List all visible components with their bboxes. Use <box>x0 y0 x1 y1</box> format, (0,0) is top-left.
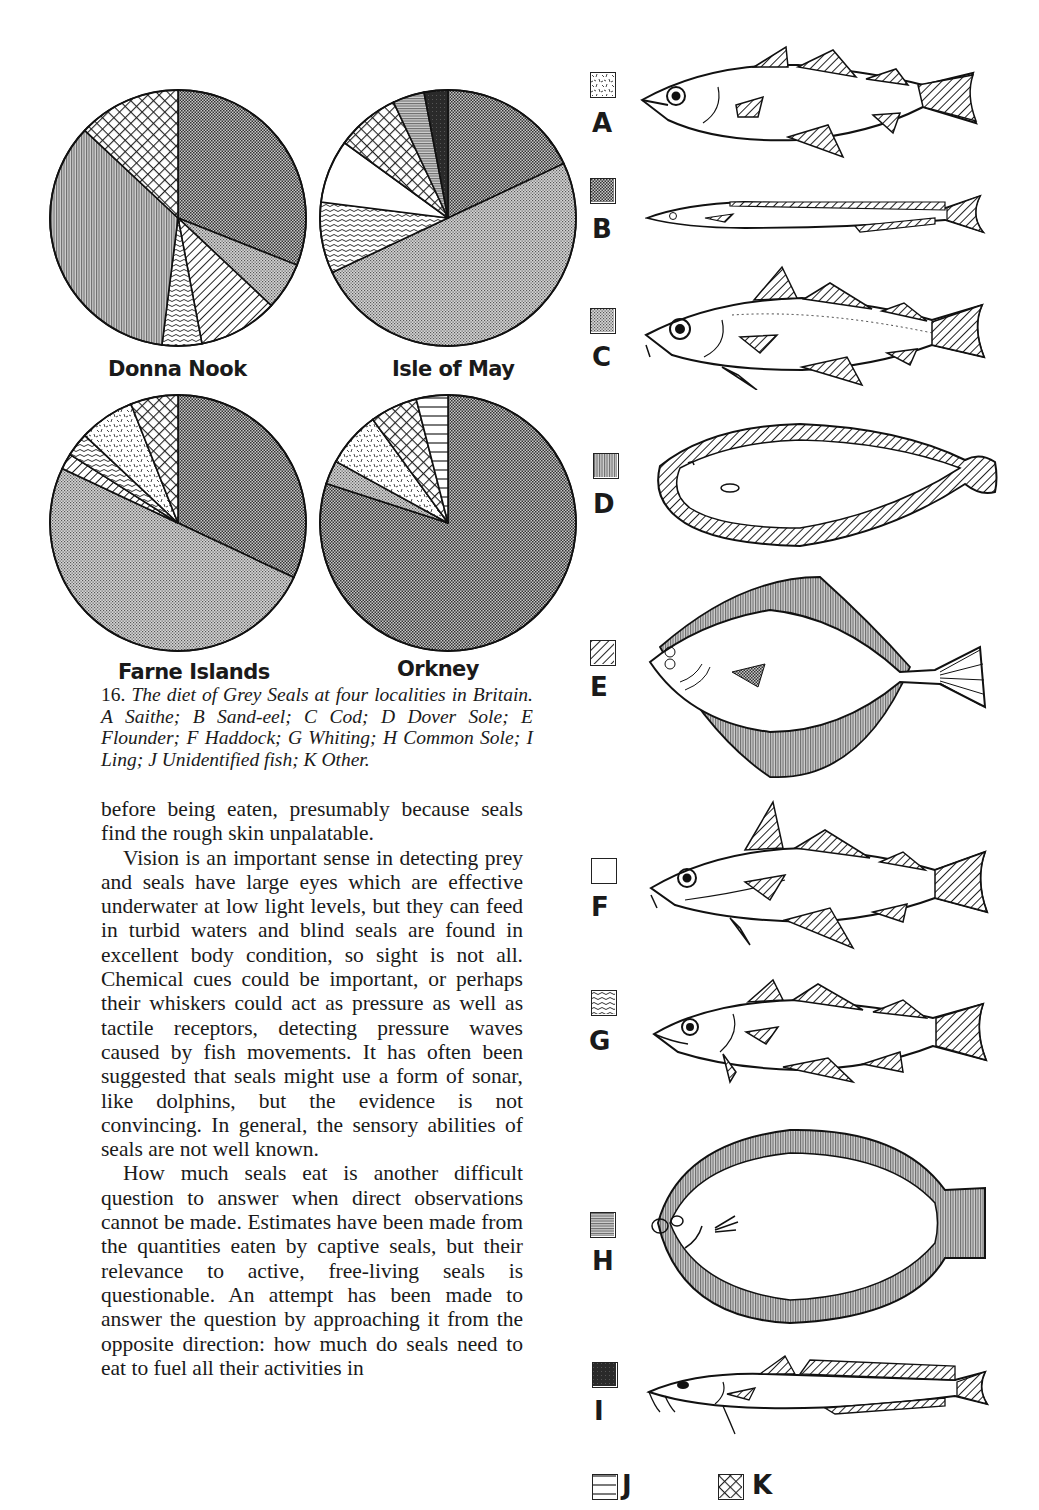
pie-title-orkney: Orkney <box>397 657 479 681</box>
crosshatch-swatch-icon <box>718 1474 744 1500</box>
paragraph: before being eaten, presumably because s… <box>101 797 523 846</box>
pie-farne-islands <box>46 388 310 662</box>
pie-title-farne-islands: Farne Islands <box>118 660 270 684</box>
pie-donna-nook <box>46 83 310 357</box>
common-sole-fish-icon <box>640 1118 995 1328</box>
sand-eel-fish-icon <box>645 190 990 240</box>
solid-dark-swatch-icon <box>592 1362 618 1388</box>
pie-title-isle-of-may: Isle of May <box>392 357 515 381</box>
fine-check-swatch-icon <box>590 308 616 334</box>
vertical-lines-swatch-icon <box>593 453 619 479</box>
ling-fish-icon <box>645 1352 995 1442</box>
haddock-fish-icon <box>645 800 995 950</box>
figure-number: 16. <box>101 684 125 705</box>
paragraph: Vision is an important sense in detectin… <box>101 846 523 1162</box>
dover-sole-fish-icon <box>650 418 1000 553</box>
pie-title-donna-nook: Donna Nook <box>108 357 247 381</box>
figure-caption-text: The diet of Grey Seals at four localitie… <box>101 684 533 770</box>
figure-caption: 16. The diet of Grey Seals at four local… <box>101 684 533 770</box>
saithe-fish-icon <box>638 45 993 160</box>
blank-swatch-icon <box>591 858 617 884</box>
paragraph: How much seals eat is another difficult … <box>101 1161 523 1380</box>
dense-check-swatch-icon <box>590 178 616 204</box>
flounder-fish-icon <box>640 572 995 782</box>
whiting-fish-icon <box>648 972 993 1092</box>
cod-fish-icon <box>642 265 997 390</box>
wavy-lines-swatch-icon <box>591 990 617 1016</box>
speckle-swatch-icon <box>590 72 616 98</box>
pie-orkney <box>316 388 580 662</box>
body-text: before being eaten, presumably because s… <box>101 797 523 1380</box>
diagonal-lines-swatch-icon <box>590 640 616 666</box>
pie-isle-of-may <box>316 83 580 357</box>
horizontal-fine-swatch-icon <box>590 1212 616 1238</box>
horizontal-lines-swatch-icon <box>592 1474 618 1500</box>
